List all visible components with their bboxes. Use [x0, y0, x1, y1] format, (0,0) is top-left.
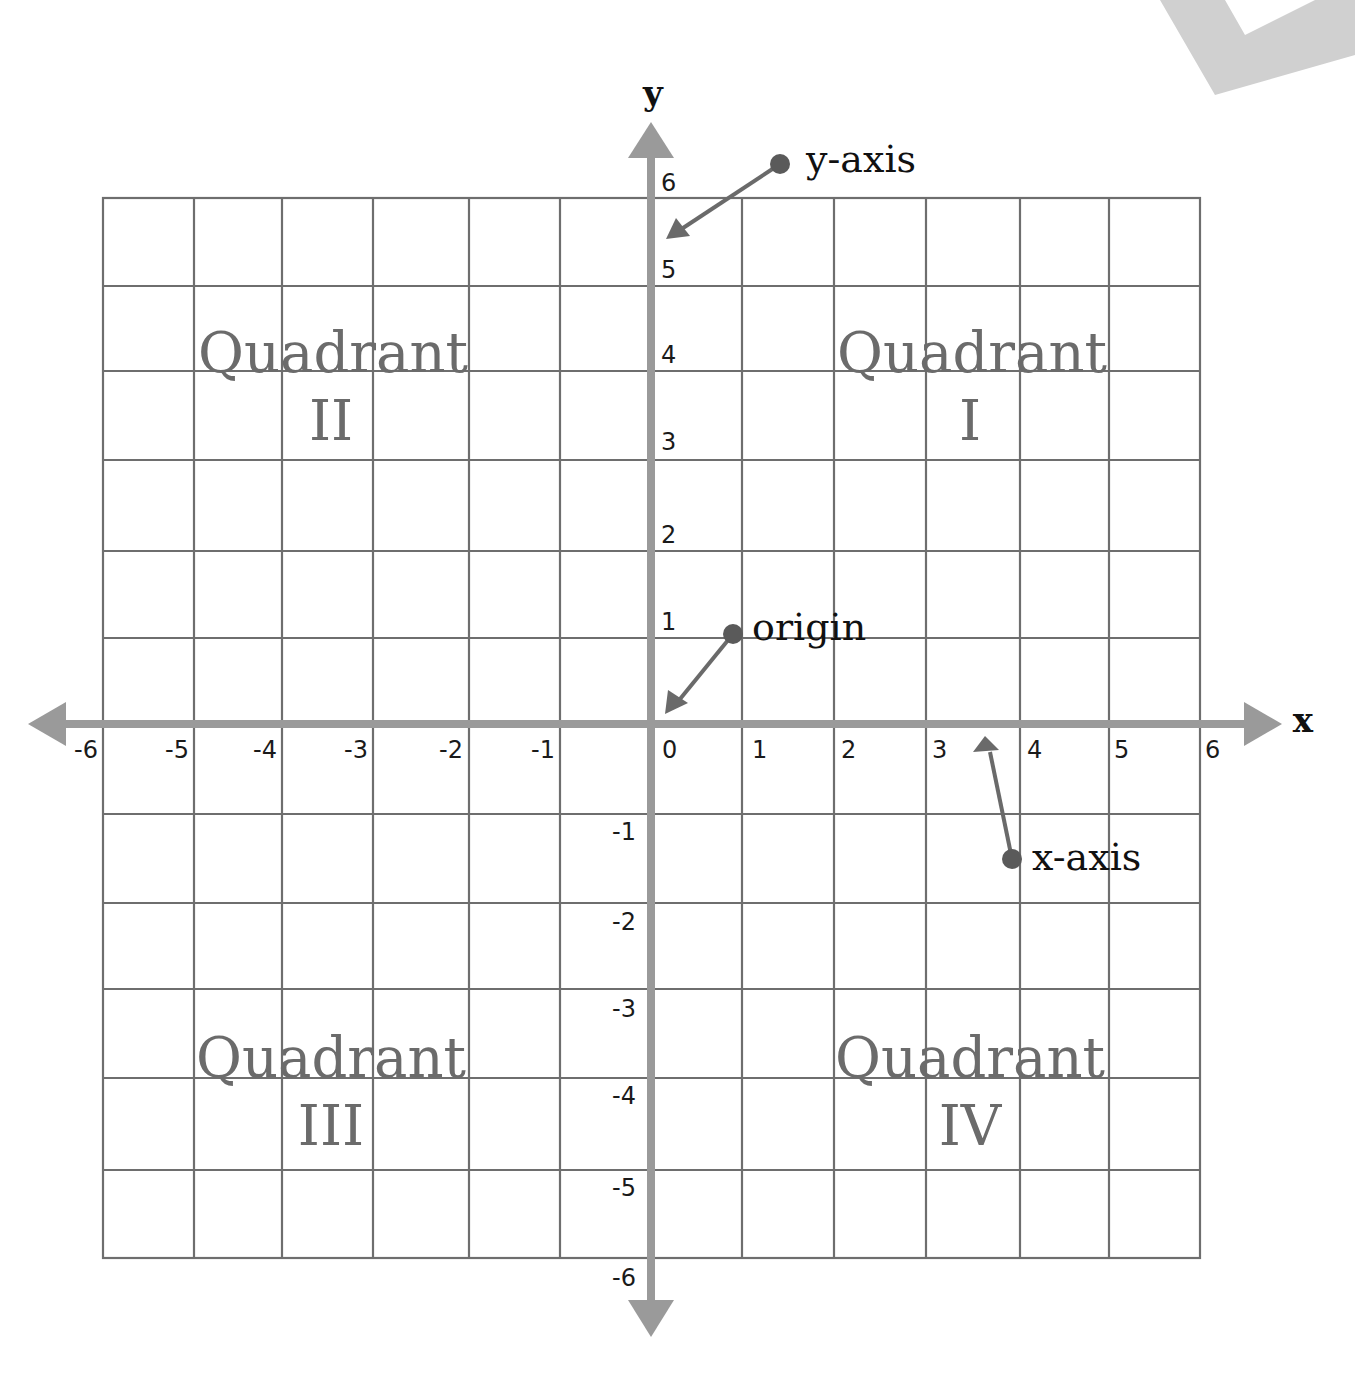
- coordinate-plane-diagram: Quadrant I Quadrant II Quadrant III Quad…: [0, 0, 1355, 1374]
- callout-dot-icon: [770, 154, 790, 174]
- callout-dot-icon: [723, 624, 743, 644]
- y-tick: 3: [661, 428, 676, 456]
- quadrant-3-numeral: III: [298, 1093, 364, 1158]
- arrowhead-icon: [666, 218, 690, 239]
- x-tick: 6: [1205, 736, 1220, 764]
- x-axis-name: x: [1293, 700, 1314, 740]
- x-tick: -4: [253, 736, 277, 764]
- x-tick: 2: [841, 736, 856, 764]
- callout-dot-icon: [1002, 849, 1022, 869]
- quadrant-1-numeral: I: [959, 388, 981, 453]
- callout-y-axis: y-axis: [666, 137, 916, 239]
- y-tick: 2: [661, 521, 676, 549]
- y-tick: 1: [661, 608, 676, 636]
- x-tick: -6: [74, 736, 98, 764]
- y-axis-name: y: [642, 73, 664, 113]
- callout-label-y-axis: y-axis: [805, 137, 916, 181]
- y-tick-labels-positive: 6 5 4 3 2 1: [661, 169, 676, 636]
- quadrant-3-word: Quadrant: [196, 1025, 466, 1090]
- quadrant-1-word: Quadrant: [837, 320, 1107, 385]
- y-tick: -2: [612, 908, 636, 936]
- quadrant-4-numeral: IV: [939, 1093, 1003, 1158]
- x-tick: -5: [165, 736, 189, 764]
- x-axis-left-arrow-icon: [28, 702, 66, 746]
- x-tick: -1: [531, 736, 555, 764]
- x-tick: -2: [439, 736, 463, 764]
- y-tick-labels-negative: -1 -2 -3 -4 -5 -6: [612, 818, 636, 1292]
- y-tick: -1: [612, 818, 636, 846]
- quadrant-2-word: Quadrant: [198, 320, 468, 385]
- y-axis-down-arrow-icon: [628, 1300, 674, 1337]
- x-tick: 5: [1114, 736, 1129, 764]
- callout-label-origin: origin: [752, 605, 866, 649]
- callout-label-x-axis: x-axis: [1032, 835, 1141, 879]
- x-tick: 0: [662, 736, 677, 764]
- y-axis-up-arrow-icon: [628, 122, 674, 158]
- y-tick: -5: [612, 1174, 636, 1202]
- x-tick: 3: [932, 736, 947, 764]
- y-tick: 6: [661, 169, 676, 197]
- quadrant-4-word: Quadrant: [835, 1025, 1105, 1090]
- corner-decoration: [1160, 0, 1355, 95]
- y-tick: -6: [612, 1264, 636, 1292]
- y-tick: 5: [661, 256, 676, 284]
- y-axis: [628, 122, 674, 1337]
- x-tick: 4: [1027, 736, 1042, 764]
- x-tick: -3: [344, 736, 368, 764]
- x-tick: 1: [752, 736, 767, 764]
- quadrant-2-numeral: II: [309, 388, 353, 453]
- arrowhead-icon: [973, 736, 999, 752]
- y-tick: -3: [612, 995, 636, 1023]
- x-axis-right-arrow-icon: [1244, 702, 1282, 746]
- y-tick: -4: [612, 1082, 636, 1110]
- y-tick: 4: [661, 341, 676, 369]
- callout-origin: origin: [665, 605, 866, 714]
